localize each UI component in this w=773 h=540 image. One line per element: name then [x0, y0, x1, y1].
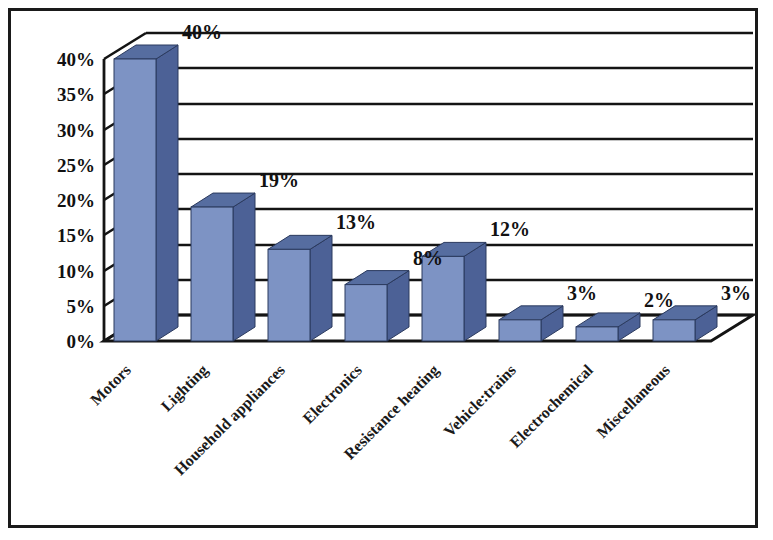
y-tick-label-35: 35% [57, 84, 95, 105]
y-tick-label-0: 0% [67, 331, 96, 352]
data-label-0: 40% [182, 21, 222, 43]
bar-3 [345, 271, 409, 341]
y-tick-label-30: 30% [57, 120, 95, 141]
y-axis-tick-labels: 0%5%10%15%20%25%30%35%40% [57, 49, 95, 352]
bar-side-face [156, 45, 178, 341]
category-label-1: Lighting [158, 361, 212, 415]
category-label-6: Electrochemical [506, 361, 596, 451]
bar-front-face [576, 327, 618, 341]
bar-side-face [233, 193, 255, 341]
bar-front-face [422, 256, 464, 341]
bars-group [114, 45, 717, 341]
chart-page: 40%19%13%8%12%3%2%3% 0%5%10%15%20%25%30%… [0, 0, 773, 540]
y-tick-label-5: 5% [67, 296, 96, 317]
data-label-6: 2% [644, 289, 674, 311]
bar-6 [576, 313, 640, 341]
category-label-7: Miscellaneous [593, 361, 673, 441]
bar-side-face [310, 235, 332, 341]
bar-1 [191, 193, 255, 341]
y-tick-label-25: 25% [57, 155, 95, 176]
y-tick-label-10: 10% [57, 261, 95, 282]
bar-front-face [653, 320, 695, 341]
data-label-3: 8% [413, 247, 443, 269]
category-labels-group: MotorsLightingHousehold appliancesElectr… [87, 361, 673, 479]
bar-front-face [499, 320, 541, 341]
category-label-5: Vehicle:trains [440, 361, 519, 440]
data-label-5: 3% [567, 282, 597, 304]
bar-front-face [114, 59, 156, 341]
bar-side-face [464, 242, 486, 341]
bar-2 [268, 235, 332, 341]
bar-0 [114, 45, 178, 341]
data-label-2: 13% [336, 211, 376, 233]
bar-5 [499, 306, 563, 341]
bar-7 [653, 306, 717, 341]
y-tick-label-40: 40% [57, 49, 95, 70]
data-label-7: 3% [721, 282, 751, 304]
y-tick-label-15: 15% [57, 225, 95, 246]
bar-front-face [345, 285, 387, 341]
bar-front-face [191, 207, 233, 341]
category-label-0: Motors [87, 361, 134, 408]
data-label-1: 19% [259, 169, 299, 191]
bar-front-face [268, 249, 310, 341]
data-label-4: 12% [490, 218, 530, 240]
y-tick-label-20: 20% [57, 190, 95, 211]
chart-frame: 40%19%13%8%12%3%2%3% 0%5%10%15%20%25%30%… [8, 8, 758, 528]
category-label-3: Electronics [299, 361, 365, 427]
bar-chart: 40%19%13%8%12%3%2%3% 0%5%10%15%20%25%30%… [11, 11, 755, 525]
